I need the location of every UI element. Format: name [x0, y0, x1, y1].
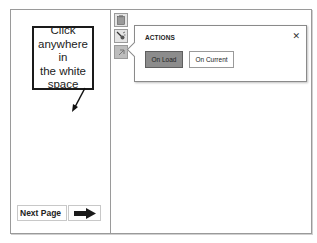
callout-line: Click	[34, 24, 92, 38]
actions-icon	[117, 48, 126, 57]
popup-title: ACTIONS	[145, 34, 175, 41]
macro-button[interactable]	[114, 29, 128, 43]
macro-wand-icon	[116, 31, 126, 41]
on-load-button[interactable]: On Load	[145, 51, 183, 68]
clipboard-button[interactable]	[114, 13, 128, 27]
callout-line: the white	[34, 65, 92, 79]
form-designer-frame: Click anywhere in the white space Next P…	[10, 9, 312, 234]
popup-pointer	[127, 42, 143, 58]
callout-line: anywhere in	[34, 38, 92, 65]
clipboard-icon	[117, 15, 125, 25]
close-icon[interactable]: ✕	[292, 31, 300, 41]
actions-button[interactable]	[114, 45, 128, 59]
next-page-button[interactable]	[68, 205, 101, 221]
actions-popup: ACTIONS ✕ On Load On Current	[134, 25, 307, 82]
instruction-callout: Click anywhere in the white space	[32, 26, 94, 90]
callout-pointer-arrow-icon	[66, 87, 92, 113]
right-arrow-icon	[74, 208, 96, 219]
form-canvas-panel[interactable]: Click anywhere in the white space Next P…	[11, 10, 111, 233]
on-current-button[interactable]: On Current	[189, 51, 234, 68]
next-page-label: Next Page	[17, 205, 67, 221]
